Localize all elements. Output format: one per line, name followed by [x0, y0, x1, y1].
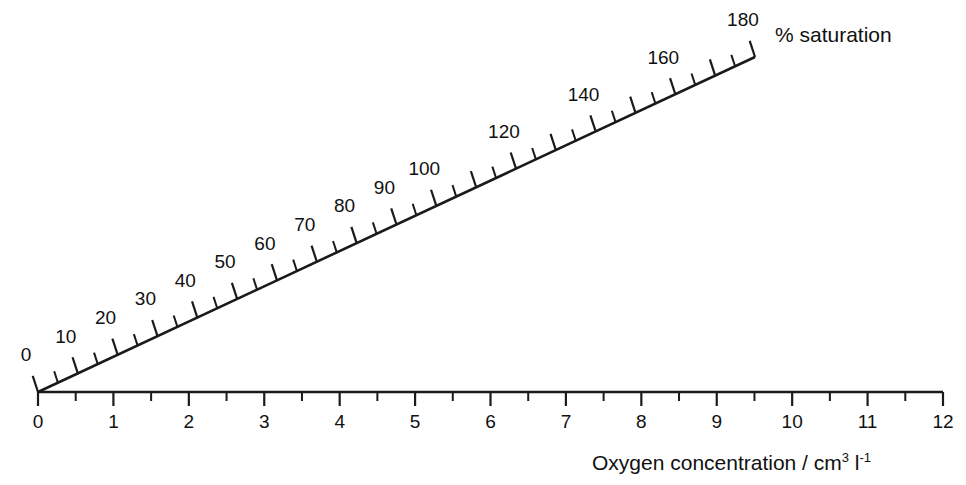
d-tick-major: [630, 97, 635, 113]
concentration-axis-title-main: Oxygen concentration / cm: [592, 451, 842, 474]
d-tick-major: [351, 227, 356, 243]
d-tick-minor: [134, 334, 138, 345]
nomogram-diagram: 0123456789101112 01020304050607080901001…: [0, 0, 966, 485]
d-tick-major: [272, 264, 277, 280]
saturation-axis-title: % saturation: [775, 23, 892, 46]
d-tick-label: 120: [488, 121, 520, 142]
d-tick-major: [590, 115, 595, 131]
h-tick-label: 6: [485, 411, 496, 432]
h-tick-label: 3: [259, 411, 270, 432]
d-tick-label: 80: [334, 195, 355, 216]
d-tick-major: [431, 190, 436, 206]
d-tick-minor: [731, 55, 735, 66]
d-tick-major: [112, 339, 117, 355]
d-tick-major: [73, 357, 78, 373]
d-tick-major: [192, 301, 197, 317]
d-tick-major: [33, 376, 38, 392]
d-tick-major: [750, 41, 755, 57]
d-tick-minor: [333, 241, 337, 252]
d-tick-minor: [572, 129, 576, 140]
h-tick-label: 12: [932, 411, 953, 432]
d-tick-label: 10: [55, 326, 76, 347]
d-tick-major: [312, 246, 317, 262]
h-tick-label: 10: [782, 411, 803, 432]
figure-canvas: 0123456789101112 01020304050607080901001…: [0, 0, 966, 485]
d-tick-minor: [692, 74, 696, 85]
d-tick-minor: [214, 297, 218, 308]
d-tick-minor: [492, 167, 496, 178]
d-tick-minor: [373, 222, 377, 233]
h-tick-label: 1: [108, 411, 119, 432]
d-tick-label: 70: [294, 214, 315, 235]
d-tick-label: 40: [175, 270, 196, 291]
d-tick-label: 160: [647, 47, 679, 68]
d-tick-minor: [94, 353, 98, 364]
d-tick-minor: [652, 92, 656, 103]
h-tick-label: 2: [184, 411, 195, 432]
percent-saturation-axis: 0102030405060708090100120140160180: [21, 9, 759, 392]
d-tick-major: [471, 171, 476, 187]
d-tick-minor: [413, 204, 417, 215]
h-tick-label: 8: [636, 411, 647, 432]
concentration-axis-title-mid: l: [849, 451, 860, 474]
h-tick-label: 5: [410, 411, 421, 432]
d-tick-minor: [293, 260, 297, 271]
h-tick-label: 11: [858, 411, 878, 432]
concentration-axis-title-exponent-minus1: -1: [860, 450, 872, 465]
d-tick-label: 140: [568, 84, 600, 105]
h-tick-label: 7: [561, 411, 572, 432]
h-tick-label: 0: [33, 411, 44, 432]
d-tick-major: [710, 59, 715, 75]
d-tick-label: 20: [95, 307, 116, 328]
d-tick-label: 0: [21, 344, 32, 365]
d-tick-major: [551, 134, 556, 150]
d-tick-major: [670, 78, 675, 94]
d-tick-label: 60: [254, 233, 275, 254]
d-tick-major: [511, 153, 516, 169]
h-tick-label: 4: [334, 411, 345, 432]
concentration-axis-title: Oxygen concentration / cm3 l-1: [592, 450, 871, 474]
d-tick-label: 180: [727, 9, 759, 30]
d-tick-major: [391, 208, 396, 224]
d-tick-label: 100: [408, 158, 440, 179]
d-tick-label: 90: [374, 177, 395, 198]
d-tick-minor: [453, 185, 457, 196]
concentration-axis-title-exponent-3: 3: [842, 450, 849, 465]
h-tick-label: 9: [711, 411, 722, 432]
d-tick-minor: [54, 371, 58, 382]
d-tick-major: [232, 283, 237, 299]
oxygen-concentration-axis: 0123456789101112: [33, 392, 954, 432]
d-tick-minor: [612, 111, 616, 122]
d-tick-major: [152, 320, 157, 336]
d-tick-minor: [174, 315, 178, 326]
d-tick-minor: [253, 278, 257, 289]
d-tick-minor: [532, 148, 536, 159]
d-tick-label: 50: [215, 251, 236, 272]
d-tick-label: 30: [135, 288, 156, 309]
